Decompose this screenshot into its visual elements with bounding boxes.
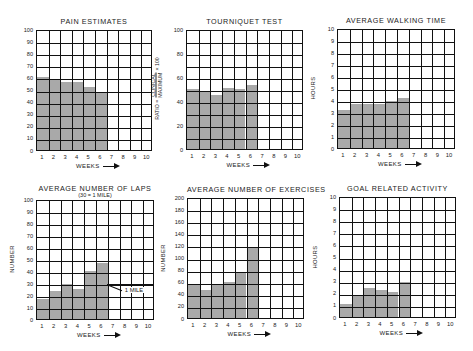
gridline-horizontal xyxy=(37,285,153,286)
plot-area xyxy=(36,200,154,320)
bar-week-6 xyxy=(96,263,108,319)
y-tick-label: 0 xyxy=(316,146,334,152)
gridline-vertical xyxy=(281,31,282,149)
gridline-horizontal xyxy=(37,55,151,56)
gridline-vertical xyxy=(422,198,423,317)
gridline-vertical xyxy=(141,31,142,150)
y-axis-label-prefix: RATIO = xyxy=(153,100,159,120)
plot-area xyxy=(337,29,455,149)
y-tick-label: 80 xyxy=(15,221,33,227)
x-axis-label-text: WEEKS xyxy=(228,331,252,337)
x-tick-label: 9 xyxy=(431,152,443,158)
gridline-horizontal xyxy=(37,297,153,298)
gridline-vertical xyxy=(72,201,73,319)
x-tick-label: 7 xyxy=(105,154,117,160)
x-tick-label: 7 xyxy=(107,323,119,329)
bar-week-6 xyxy=(399,282,411,317)
gridline-vertical xyxy=(350,30,351,148)
x-tick-label: 8 xyxy=(269,322,281,328)
gridline-vertical xyxy=(292,31,293,149)
y-tick-label: 0 xyxy=(165,147,183,153)
gridline-horizontal xyxy=(340,246,455,247)
gridline-horizontal xyxy=(37,67,151,68)
gridline-vertical xyxy=(95,31,96,150)
y-tick-label: 60 xyxy=(15,75,33,81)
bar-week-2 xyxy=(49,291,61,319)
x-tick-label: 5 xyxy=(384,152,396,158)
plot-area xyxy=(339,197,456,318)
x-tick-label: 2 xyxy=(198,153,210,159)
reference-line-1-mile xyxy=(107,284,154,285)
gridline-horizontal xyxy=(340,283,455,284)
gridline-vertical xyxy=(49,201,50,319)
x-tick-label: 3 xyxy=(209,153,221,159)
x-tick-label: 10 xyxy=(291,153,303,159)
y-tick-label: 4 xyxy=(316,98,334,104)
gridline-horizontal xyxy=(338,54,454,55)
y-tick-label: 180 xyxy=(166,207,184,213)
arrow-right-icon xyxy=(104,335,118,336)
x-axis-label: WEEKS xyxy=(77,332,118,338)
x-tick-label: 9 xyxy=(280,322,292,328)
gridline-horizontal xyxy=(37,309,153,310)
y-axis-label: NUMBER xyxy=(9,239,15,279)
y-tick-label: 0 xyxy=(166,316,184,322)
y-tick-label: 4 xyxy=(318,266,336,272)
gridline-horizontal xyxy=(340,259,455,260)
gridline-horizontal xyxy=(340,271,455,272)
gridline-horizontal xyxy=(340,234,455,235)
x-tick-label: 8 xyxy=(421,321,433,327)
gridline-horizontal xyxy=(37,140,151,141)
gridline-horizontal xyxy=(188,223,303,224)
x-axis-label-text: WEEKS xyxy=(77,332,101,338)
x-tick-label: 8 xyxy=(268,153,280,159)
x-tick-label: 3 xyxy=(59,154,71,160)
x-tick-label: 8 xyxy=(420,152,432,158)
chart-subtitle: (30 = 1 MILE) xyxy=(36,192,154,198)
x-tick-label: 6 xyxy=(94,154,106,160)
x-tick-label: 7 xyxy=(257,322,269,328)
arrow-right-icon xyxy=(406,333,420,334)
bar-week-1 xyxy=(338,110,350,148)
annotation-label: 1 MILE xyxy=(124,287,144,293)
gridline-horizontal xyxy=(338,102,454,103)
gridline-horizontal xyxy=(188,296,303,297)
chart-title: TOURNIQUET TEST xyxy=(186,17,303,26)
y-tick-label: 90 xyxy=(15,39,33,45)
y-tick-label: 100 xyxy=(165,27,183,33)
y-tick-label: 100 xyxy=(166,255,184,261)
x-tick-label: 10 xyxy=(443,152,455,158)
gridline-horizontal xyxy=(37,43,151,44)
gridline-horizontal xyxy=(37,273,153,274)
y-tick-label: 20 xyxy=(15,293,33,299)
gridline-horizontal xyxy=(340,307,455,308)
gridline-vertical xyxy=(223,199,224,318)
x-tick-label: 6 xyxy=(397,321,409,327)
x-tick-label: 5 xyxy=(82,154,94,160)
x-tick-label: 2 xyxy=(351,321,363,327)
gridline-vertical xyxy=(234,31,235,149)
x-tick-label: 2 xyxy=(349,152,361,158)
gridline-vertical xyxy=(199,31,200,149)
plot-area xyxy=(187,198,304,319)
y-tick-label: 8 xyxy=(318,218,336,224)
y-axis-label-fraction: CLINICALMAXIMUM xyxy=(150,72,163,97)
x-tick-label: 1 xyxy=(337,152,349,158)
gridline-horizontal xyxy=(37,79,151,80)
gridline-vertical xyxy=(84,201,85,319)
x-axis-label-text: WEEKS xyxy=(378,161,402,167)
y-tick-label: 40 xyxy=(166,291,184,297)
x-tick-label: 4 xyxy=(221,153,233,159)
y-tick-label: 80 xyxy=(15,51,33,57)
y-tick-label: 60 xyxy=(166,279,184,285)
y-tick-label: 2 xyxy=(316,122,334,128)
gridline-vertical xyxy=(49,31,50,150)
x-tick-label: 5 xyxy=(234,322,246,328)
x-tick-label: 8 xyxy=(117,154,129,160)
gridline-horizontal xyxy=(340,222,455,223)
y-tick-label: 140 xyxy=(166,231,184,237)
arrow-right-icon xyxy=(405,164,419,165)
gridline-vertical xyxy=(258,199,259,318)
y-tick-label: 100 xyxy=(15,197,33,203)
x-tick-label: 10 xyxy=(444,321,456,327)
